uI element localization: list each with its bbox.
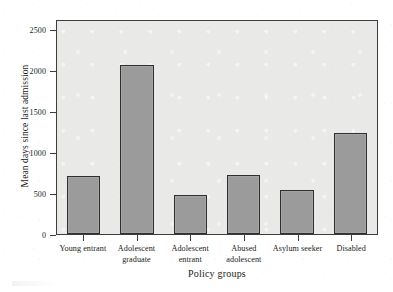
x-axis-tick-mark — [190, 235, 191, 241]
y-axis-tick-mark — [50, 235, 56, 236]
x-axis-category-label-line: graduate — [110, 255, 164, 266]
x-axis-tick-mark — [83, 235, 84, 241]
bar-slot — [164, 21, 217, 234]
x-axis-category-label: Disabled — [324, 244, 378, 266]
bar[interactable] — [67, 176, 100, 234]
y-axis-title: Mean days since last admission — [18, 10, 32, 242]
x-axis-tick-mark — [351, 235, 352, 241]
bar-chart-figure: Mean days since last admission 0 500 100… — [0, 0, 393, 292]
y-axis-tick-label: 500 — [6, 190, 46, 199]
bar[interactable] — [227, 175, 260, 234]
bar[interactable] — [334, 133, 367, 234]
bar-slot — [110, 21, 163, 234]
x-axis-category-label-line: Asylum seeker — [271, 244, 325, 255]
bar-slot — [57, 21, 110, 234]
bar-slot — [217, 21, 270, 234]
x-axis-category-label-line: entrant — [163, 255, 217, 266]
bar[interactable] — [174, 195, 207, 234]
bar[interactable] — [280, 190, 313, 234]
x-axis-category-label: Abused adolescent — [217, 244, 271, 266]
x-axis-category-label: Adolescent graduate — [110, 244, 164, 266]
x-axis-category-label: Young entrant — [56, 244, 110, 266]
x-axis-tick-mark — [137, 235, 138, 241]
x-axis-category-label-line: adolescent — [217, 255, 271, 266]
x-axis-tick-mark — [244, 235, 245, 241]
bar[interactable] — [120, 65, 153, 234]
x-axis-category-label: Adolescent entrant — [163, 244, 217, 266]
x-axis-category-label-line: Adolescent — [163, 244, 217, 255]
y-axis-tick-label: 2000 — [6, 67, 46, 76]
y-axis-tick-label: 2500 — [6, 26, 46, 35]
x-axis-category-label-line: Abused — [217, 244, 271, 255]
y-axis-tick-label: 0 — [6, 231, 46, 240]
scan-artifact — [12, 281, 60, 286]
x-axis-category-label: Asylum seeker — [271, 244, 325, 266]
x-axis-category-label-line: Adolescent — [110, 244, 164, 255]
bar-series — [57, 21, 377, 234]
bar-slot — [324, 21, 377, 234]
y-axis-tick-label: 1500 — [6, 108, 46, 117]
x-axis-category-label-line: Disabled — [324, 244, 378, 255]
x-axis-category-label-line: Young entrant — [56, 244, 110, 255]
y-axis-tick-label: 1000 — [6, 149, 46, 158]
x-axis-category-labels: Young entrant Adolescent graduate Adoles… — [56, 244, 378, 266]
x-axis-tick-mark — [298, 235, 299, 241]
bar-slot — [270, 21, 323, 234]
plot-area — [56, 20, 378, 235]
x-axis-title: Policy groups — [56, 268, 378, 279]
